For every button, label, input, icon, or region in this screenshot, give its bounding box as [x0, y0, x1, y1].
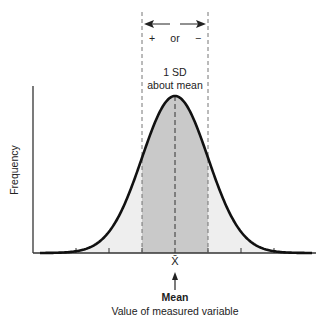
- sd-label-line1: 1 SD: [163, 66, 186, 78]
- double-arrow-icon: [144, 20, 206, 28]
- up-arrow-icon: [172, 272, 178, 290]
- plus-sign: +: [149, 32, 155, 44]
- sd-label-line2: about mean: [147, 79, 202, 91]
- mean-symbol: X̄: [171, 255, 178, 267]
- mean-label: Mean: [162, 291, 189, 303]
- one-sd-fill-area: [142, 96, 208, 253]
- normal-distribution-diagram: [0, 0, 324, 320]
- y-axis-label: Frequency: [8, 145, 20, 195]
- x-axis-label: Value of measured variable: [111, 305, 238, 317]
- minus-sign: −: [195, 32, 201, 44]
- or-label: or: [170, 32, 179, 44]
